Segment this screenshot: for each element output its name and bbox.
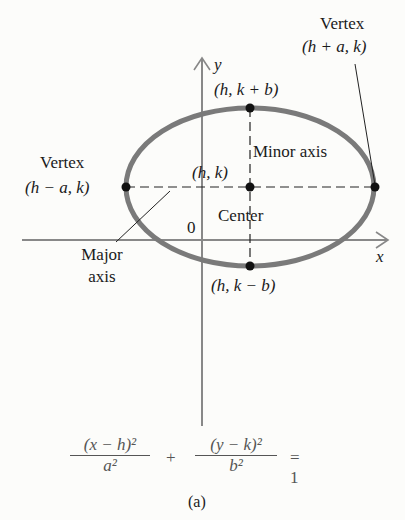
y-axis-label: y [214,55,222,74]
major-axis-leader [116,191,170,242]
center-label: Center [218,206,263,225]
vertex-right-coords: (h + a, k) [302,37,366,56]
term1-denominator: a² [70,456,150,476]
x-axis-label: x [376,247,384,266]
origin-label: 0 [187,218,196,237]
center-point [246,183,255,192]
minor-axis-label: Minor axis [253,142,327,161]
vertex-right-title: Vertex [320,14,364,33]
vertex-right-leader [355,64,375,185]
vertex-left-title: Vertex [40,153,84,172]
equation-term2: (y − k)² b² [195,435,277,476]
major-axis-label-line1: Major [72,245,132,264]
bottom-point [246,262,255,271]
term2-numerator: (y − k)² [195,435,277,456]
vertex-right-point [371,183,380,192]
top-point [246,104,255,113]
center-point-label: (h, k) [192,163,228,182]
top-point-label: (h, k + b) [214,80,278,99]
major-axis-label-line2: axis [72,267,132,286]
vertex-left-coords: (h − a, k) [25,178,89,197]
equation-plus: + [166,448,176,468]
figure-caption: (a) [188,492,206,511]
vertex-left-point [122,183,131,192]
equation-rhs: = 1 [290,448,300,488]
equation-term1: (x − h)² a² [70,435,150,476]
bottom-point-label: (h, k − b) [211,276,275,295]
term2-denominator: b² [195,456,277,476]
term1-numerator: (x − h)² [70,435,150,456]
